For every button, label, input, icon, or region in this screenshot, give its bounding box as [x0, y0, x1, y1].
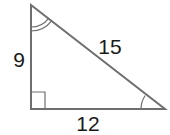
top-angle-double-arc-marker — [31, 18, 52, 31]
right-angle-marker — [31, 92, 45, 109]
horizontal-side-label: 12 — [76, 112, 99, 135]
hypotenuse-label: 15 — [98, 35, 121, 58]
vertical-side-label: 9 — [13, 48, 25, 71]
bottom-right-angle-arc-marker — [141, 96, 145, 110]
right-triangle-diagram: 9 12 15 — [0, 0, 170, 135]
